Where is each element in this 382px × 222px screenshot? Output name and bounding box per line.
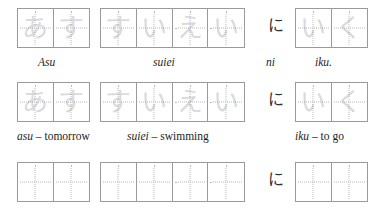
grid-suiei[interactable] <box>100 162 245 202</box>
grid-cell[interactable]: い <box>208 9 244 47</box>
horizontal-guide-icon <box>334 28 366 29</box>
grid-cell[interactable] <box>101 163 137 201</box>
caption-ni: ni <box>266 56 275 68</box>
grid-cell[interactable] <box>208 163 244 201</box>
grid-iku[interactable]: い く <box>295 8 368 48</box>
caption-meaning: – to go <box>309 130 344 142</box>
caption-romaji: asu <box>17 130 33 142</box>
grid-asu[interactable]: あ す <box>17 8 90 48</box>
grid-cell[interactable]: え <box>173 83 209 121</box>
grid-iku[interactable] <box>295 162 368 202</box>
particle-ni-glyph: に <box>268 172 284 188</box>
grid-cell[interactable]: い <box>208 83 244 121</box>
grid-cell[interactable]: く <box>332 9 368 47</box>
horizontal-guide-icon <box>56 182 88 183</box>
horizontal-guide-icon <box>175 28 206 29</box>
caption-asu-tomorrow: asu – tomorrow <box>17 130 90 142</box>
horizontal-guide-icon <box>175 182 206 183</box>
grid-cell[interactable]: す <box>54 9 90 47</box>
grid-suiei[interactable]: す い え い <box>100 8 245 48</box>
worksheet-page: あ す す い え <box>0 0 382 222</box>
caption-romaji: iku <box>295 130 309 142</box>
caption-meaning: – swimming <box>149 130 209 142</box>
caption-romaji: Asu <box>38 56 55 68</box>
grid-cell[interactable]: い <box>137 9 173 47</box>
grid-cell[interactable]: す <box>101 9 137 47</box>
caption-romaji: suiei <box>153 56 175 68</box>
horizontal-guide-icon <box>56 28 88 29</box>
horizontal-guide-icon <box>210 28 242 29</box>
grid-asu[interactable] <box>17 162 90 202</box>
horizontal-guide-icon <box>175 102 206 103</box>
caption-asu: Asu <box>38 56 55 68</box>
horizontal-guide-icon <box>20 28 51 29</box>
horizontal-guide-icon <box>103 28 134 29</box>
caption-meaning: – tomorrow <box>33 130 90 142</box>
horizontal-guide-icon <box>298 182 329 183</box>
grid-cell[interactable]: あ <box>18 9 54 47</box>
horizontal-guide-icon <box>298 102 329 103</box>
grid-cell[interactable]: あ <box>18 83 54 121</box>
horizontal-guide-icon <box>20 102 51 103</box>
horizontal-guide-icon <box>298 28 329 29</box>
grid-cell[interactable]: い <box>296 83 332 121</box>
caption-suiei-swimming: suiei – swimming <box>127 130 209 142</box>
caption-iku-to-go: iku – to go <box>295 130 344 142</box>
grid-suiei[interactable]: す い え い <box>100 82 245 122</box>
horizontal-guide-icon <box>20 182 51 183</box>
horizontal-guide-icon <box>139 182 170 183</box>
caption-romaji: suiei <box>127 130 149 142</box>
grid-cell[interactable] <box>296 163 332 201</box>
caption-iku: iku. <box>315 56 332 68</box>
horizontal-guide-icon <box>334 102 366 103</box>
grid-asu[interactable]: あ す <box>17 82 90 122</box>
horizontal-guide-icon <box>103 182 134 183</box>
grid-cell[interactable]: す <box>101 83 137 121</box>
caption-romaji: iku. <box>315 56 332 68</box>
horizontal-guide-icon <box>210 182 242 183</box>
grid-cell[interactable]: す <box>54 83 90 121</box>
grid-cell[interactable]: え <box>173 9 209 47</box>
grid-cell[interactable] <box>18 163 54 201</box>
particle-ni-glyph: に <box>268 18 284 34</box>
grid-cell[interactable]: く <box>332 83 368 121</box>
grid-cell[interactable] <box>54 163 90 201</box>
horizontal-guide-icon <box>56 102 88 103</box>
caption-romaji: ni <box>266 56 275 68</box>
caption-suiei: suiei <box>153 56 175 68</box>
particle-ni-glyph: に <box>268 92 284 108</box>
grid-cell[interactable] <box>173 163 209 201</box>
grid-cell[interactable] <box>137 163 173 201</box>
grid-iku[interactable]: い く <box>295 82 368 122</box>
horizontal-guide-icon <box>139 102 170 103</box>
horizontal-guide-icon <box>334 182 366 183</box>
horizontal-guide-icon <box>103 102 134 103</box>
horizontal-guide-icon <box>210 102 242 103</box>
horizontal-guide-icon <box>139 28 170 29</box>
grid-cell[interactable]: い <box>296 9 332 47</box>
grid-cell[interactable]: い <box>137 83 173 121</box>
grid-cell[interactable] <box>332 163 368 201</box>
